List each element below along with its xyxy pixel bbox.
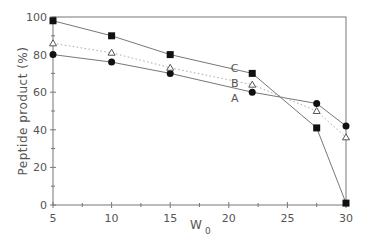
series-annotation-B: B (231, 77, 239, 90)
square-marker-icon (343, 200, 350, 207)
y-tick-label: 0 (40, 199, 47, 212)
x-tick-label: 10 (105, 212, 119, 225)
triangle-marker-icon (50, 40, 57, 46)
chart: 02040608010051015202530 Peptide product … (0, 0, 370, 245)
x-tick-label: 30 (339, 212, 353, 225)
circle-marker-icon (108, 59, 115, 66)
series-annotation-C: C (231, 62, 239, 75)
x-tick-label: 5 (50, 212, 57, 225)
square-marker-icon (50, 17, 57, 24)
labels: Peptide product (%)W0CBA (16, 47, 239, 236)
x-tick-label: 25 (280, 212, 294, 225)
circle-marker-icon (249, 89, 256, 96)
circle-marker-icon (50, 51, 57, 58)
circle-marker-icon (343, 123, 350, 130)
triangle-marker-icon (313, 108, 320, 114)
series-annotation-A: A (231, 92, 239, 105)
x-axis-title: W (190, 218, 202, 232)
square-marker-icon (108, 32, 115, 39)
circle-marker-icon (313, 100, 320, 107)
x-tick-label: 20 (222, 212, 236, 225)
y-axis-title: Peptide product (%) (16, 47, 30, 176)
axes: 02040608010051015202530 (26, 11, 353, 225)
square-marker-icon (313, 124, 320, 131)
series-line-C (53, 21, 346, 203)
y-tick-label: 100 (26, 11, 47, 24)
y-tick-label: 80 (33, 49, 47, 62)
series (50, 17, 350, 206)
square-marker-icon (167, 51, 174, 58)
plot-frame (53, 17, 346, 205)
x-tick-label: 15 (163, 212, 177, 225)
y-tick-label: 20 (33, 161, 47, 174)
x-axis-title-subscript: 0 (205, 226, 211, 236)
series-line-B (53, 43, 346, 137)
square-marker-icon (249, 70, 256, 77)
y-tick-label: 40 (33, 124, 47, 137)
circle-marker-icon (167, 70, 174, 77)
y-tick-label: 60 (33, 86, 47, 99)
